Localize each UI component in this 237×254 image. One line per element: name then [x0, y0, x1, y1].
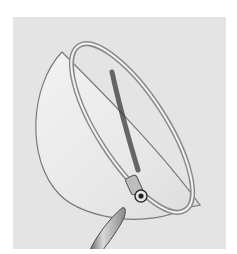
glass-dish-illustration — [13, 17, 226, 249]
photo-frame — [13, 17, 226, 249]
